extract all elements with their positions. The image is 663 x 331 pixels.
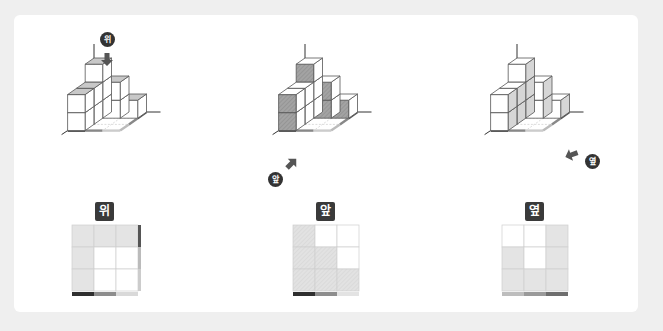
edge-indicator-bar [524,292,546,296]
grid-cell-filled [72,247,94,269]
cube-front-face [68,113,86,131]
grid-cell-filled [72,225,94,247]
grid-cell-filled [337,269,359,291]
grid-cell-filled [94,225,116,247]
grid-cell-empty [524,247,546,269]
edge-indicator-bar [138,225,141,247]
grid-cell-empty [502,225,524,247]
grid-cell-filled [524,269,546,291]
edge-indicator-bar [337,292,359,296]
arrow-left-icon [563,147,579,163]
grid-cell-empty [94,269,116,291]
floor-right-edge [552,118,561,124]
edge-indicator-bar [546,292,568,296]
edge-indicator-bar [138,247,141,269]
cube-front-face [68,95,86,113]
cube-front-face [508,64,526,82]
grid-cell-empty [116,247,138,269]
grid-cell-filled [116,225,138,247]
direction-label-top: 위 [100,32,115,47]
edge-indicator-bar [502,292,524,296]
view-grid-front [293,225,359,296]
grid-cell-empty [94,247,116,269]
view-title-side: 옆 [525,202,544,221]
grid-cell-filled [293,269,315,291]
grid-cell-filled [315,269,337,291]
grid-cell-empty [337,225,359,247]
view-grid-top [72,225,141,296]
edge-indicator-bar [116,292,138,296]
cube-stack-side [485,44,584,135]
grid-cell-empty [116,269,138,291]
floor-right-edge [331,124,340,130]
grid-cell-filled [315,247,337,269]
edge-indicator-bar [315,292,337,296]
grid-cell-empty [524,225,546,247]
edge-indicator-bar [138,269,141,291]
view-title-top: 위 [95,202,114,221]
grid-cell-empty [337,247,359,269]
view-grid-side [502,225,568,296]
floor-right-edge [340,118,349,124]
grid-cell-filled [293,225,315,247]
grid-cell-filled [546,269,568,291]
axis-left [485,131,491,135]
grid-cell-filled [293,247,315,269]
arrow-up-right-icon [283,155,301,173]
edge-indicator-bar [72,292,94,296]
direction-label-front: 앞 [268,172,283,187]
axis-left [62,131,68,135]
grid-cell-filled [502,269,524,291]
grid-cell-filled [502,247,524,269]
axis-left [273,131,279,135]
floor-right-edge [120,124,129,130]
edge-indicator-bar [94,292,116,296]
cube-front-face [491,95,509,113]
cube-stack-front [273,44,372,135]
cube-front-face [279,113,297,131]
floor-right-edge [129,118,138,124]
cube-stack-top [62,44,161,135]
grid-cell-filled [546,225,568,247]
edge-indicator-bar [293,292,315,296]
grid-cell-filled [72,269,94,291]
grid-cell-empty [315,225,337,247]
floor-right-edge [543,124,552,130]
view-title-front: 앞 [316,202,335,221]
cube-front-face [279,95,297,113]
grid-cell-filled [546,247,568,269]
cube-views-diagram [0,0,663,331]
cube-front-face [296,64,314,82]
cube-front-face [85,64,103,82]
cube-front-face [491,113,509,131]
direction-label-side: 옆 [585,154,600,169]
